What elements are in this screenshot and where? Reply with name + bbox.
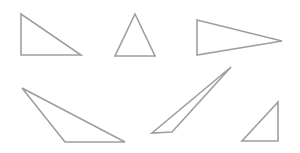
triangle-obtuse [22, 88, 125, 142]
triangles-diagram [0, 0, 300, 153]
triangle-pointing-right [197, 20, 282, 55]
triangle-right-angle-top-left [21, 14, 81, 55]
triangle-isosceles-acute [115, 14, 155, 56]
triangle-sliver-obtuse [152, 67, 231, 133]
diagram-canvas [0, 0, 300, 153]
triangle-right-angle-bottom-right [242, 102, 278, 141]
